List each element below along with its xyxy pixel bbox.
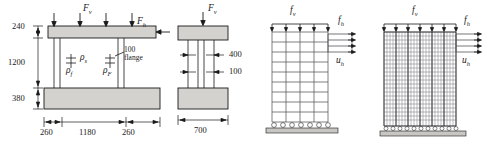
figure-section: Fv 400 100 700 bbox=[170, 0, 262, 147]
label-fv-fine: fv bbox=[412, 6, 418, 17]
dim-380: 380 bbox=[12, 94, 25, 103]
horizontal-load-block bbox=[328, 34, 352, 52]
distributed-load-arrows bbox=[270, 24, 329, 32]
dim-700: 700 bbox=[194, 126, 207, 135]
coarse-mesh-drawing bbox=[262, 0, 380, 147]
reinforcement-symbols bbox=[66, 52, 124, 68]
fine-mesh-drawing bbox=[380, 0, 492, 147]
section-vertical-load bbox=[201, 12, 205, 26]
bottom-foundation bbox=[44, 88, 160, 109]
base-support bbox=[266, 123, 338, 133]
label-Fv-section: Fv bbox=[208, 4, 217, 15]
fine-distributed-load bbox=[382, 24, 457, 32]
label-rho-s: ρs bbox=[80, 53, 87, 64]
dim-100: 100 bbox=[229, 67, 242, 76]
label-rho-F: ρF bbox=[103, 66, 112, 77]
dim-260-left: 260 bbox=[40, 128, 53, 137]
label-fv-coarse: fv bbox=[290, 6, 296, 17]
mesh-grid bbox=[272, 32, 328, 122]
figure-mesh-fine: fv fh uh bbox=[380, 0, 492, 147]
section-top-block bbox=[178, 26, 228, 40]
section-base-dim bbox=[178, 115, 228, 125]
section-webs bbox=[188, 40, 214, 88]
horizontal-load-arrow bbox=[156, 30, 170, 34]
label-flange: flange bbox=[124, 54, 143, 62]
label-uh-fine: uh bbox=[462, 56, 470, 67]
fine-horizontal-load-block bbox=[456, 34, 478, 52]
diagram-root: Fv Fh 240 1200 380 260 1180 260 ρs ρf ρF… bbox=[0, 0, 492, 147]
label-fh-coarse: fh bbox=[338, 16, 344, 27]
figure-mesh-coarse: fv fh uh bbox=[262, 0, 380, 147]
dim-1180: 1180 bbox=[79, 128, 96, 137]
vertical-dimension-line bbox=[33, 26, 43, 109]
dim-400: 400 bbox=[229, 50, 242, 59]
section-drawing bbox=[170, 0, 262, 147]
section-bottom-block bbox=[178, 88, 228, 109]
vertical-load-arrows bbox=[52, 13, 134, 27]
label-Fv-elevation: Fv bbox=[83, 4, 92, 15]
figure-elevation: Fv Fh 240 1200 380 260 1180 260 ρs ρf ρF… bbox=[0, 0, 170, 147]
horizontal-dimension-line bbox=[44, 117, 160, 127]
label-fh-fine: fh bbox=[464, 16, 470, 27]
fine-base-support bbox=[380, 127, 466, 137]
dim-240: 240 bbox=[12, 22, 25, 31]
label-Fh-elevation: Fh bbox=[137, 17, 146, 28]
label-uh-coarse: uh bbox=[336, 56, 344, 67]
label-rho-f: ρf bbox=[66, 66, 72, 77]
dim-260-right: 260 bbox=[122, 128, 135, 137]
dim-1200: 1200 bbox=[8, 58, 25, 67]
section-inner-dims bbox=[180, 53, 224, 73]
